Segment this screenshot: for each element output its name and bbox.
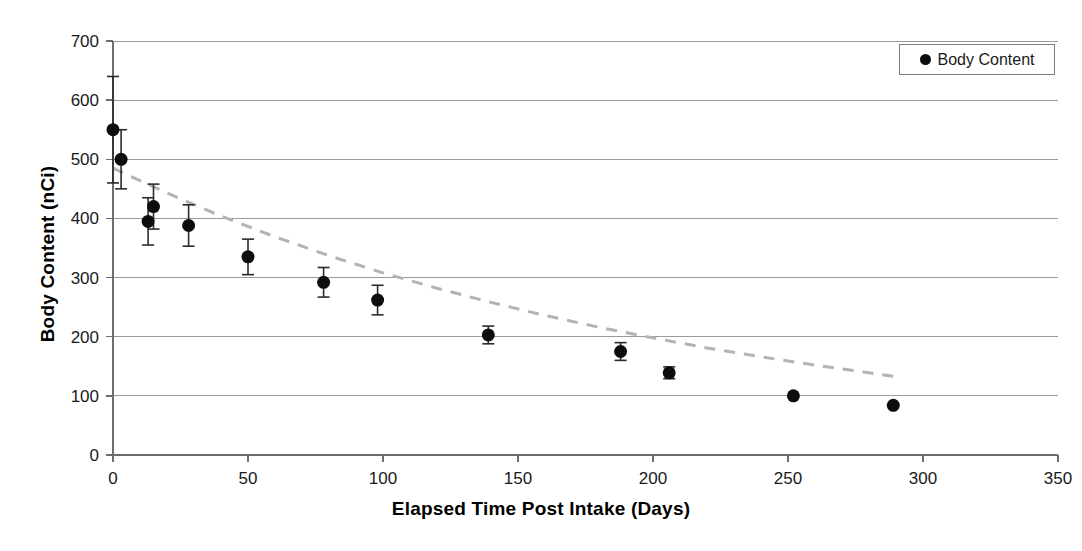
x-axis-ticks: 050100150200250300350 xyxy=(108,455,1072,488)
svg-text:500: 500 xyxy=(71,150,99,169)
svg-text:200: 200 xyxy=(639,469,667,488)
filled-circle-marker-icon xyxy=(920,54,931,65)
gridlines xyxy=(113,41,1058,396)
legend-entry-label: Body Content xyxy=(938,52,1035,68)
chart-container: 050100150200250300350 010020030040050060… xyxy=(0,0,1082,551)
data-points xyxy=(107,123,900,412)
svg-text:300: 300 xyxy=(909,469,937,488)
svg-text:350: 350 xyxy=(1044,469,1072,488)
y-axis-title: Body Content (nCi) xyxy=(37,89,59,419)
svg-text:600: 600 xyxy=(71,91,99,110)
svg-text:50: 50 xyxy=(239,469,258,488)
trend-line xyxy=(113,168,901,377)
svg-text:250: 250 xyxy=(774,469,802,488)
scatter-plot-canvas: 050100150200250300350 010020030040050060… xyxy=(0,0,1082,551)
y-axis-ticks: 0100200300400500600700 xyxy=(71,32,113,465)
svg-text:400: 400 xyxy=(71,209,99,228)
svg-text:0: 0 xyxy=(108,469,117,488)
x-axis-title: Elapsed Time Post Intake (Days) xyxy=(0,498,1082,520)
svg-text:700: 700 xyxy=(71,32,99,51)
svg-text:100: 100 xyxy=(369,469,397,488)
axis-lines xyxy=(113,41,1058,455)
legend[interactable]: Body Content xyxy=(899,44,1055,75)
svg-text:0: 0 xyxy=(90,446,99,465)
svg-text:300: 300 xyxy=(71,269,99,288)
svg-text:150: 150 xyxy=(504,469,532,488)
svg-text:200: 200 xyxy=(71,328,99,347)
svg-text:100: 100 xyxy=(71,387,99,406)
